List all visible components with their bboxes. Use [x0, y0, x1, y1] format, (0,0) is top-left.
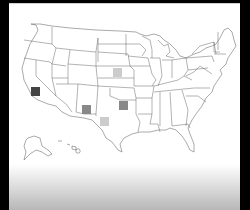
marker-kansas[interactable] [113, 68, 122, 77]
us-map [0, 0, 250, 210]
marker-arizona[interactable] [82, 105, 91, 114]
marker-oklahoma[interactable] [119, 101, 128, 110]
marker-texas[interactable] [100, 117, 109, 126]
marker-california[interactable] [31, 87, 40, 96]
hawaii-outline [58, 141, 80, 153]
state-borders [24, 27, 226, 132]
alaska-outline [24, 136, 52, 160]
